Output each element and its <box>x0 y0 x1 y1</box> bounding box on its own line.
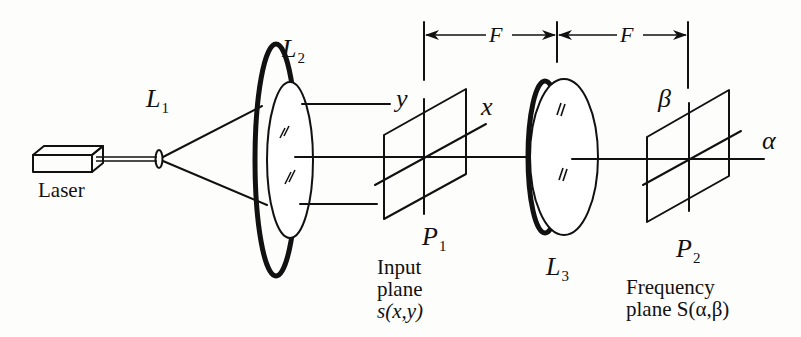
axis-alpha-label: α <box>762 128 776 154</box>
plane-p1-label-main: P <box>422 222 438 251</box>
laser-icon <box>33 146 103 172</box>
lens-l2-label: L2 <box>282 36 305 62</box>
dimension-markers <box>424 22 688 88</box>
lens-l1-label: L1 <box>146 86 169 112</box>
lens-l2-icon <box>255 44 313 276</box>
laser-beam <box>96 157 157 161</box>
lens-l1-label-sub: 1 <box>161 100 169 116</box>
lens-l3-label-main: L <box>546 252 560 281</box>
lens-l2-label-main: L <box>282 34 296 63</box>
lens-l3-icon <box>528 79 600 235</box>
lens-l1-label-main: L <box>146 84 160 113</box>
input-plane-caption-line3: s(x,y) <box>377 300 423 322</box>
axis-beta-label: β <box>658 86 671 112</box>
lens-l1-icon <box>156 150 163 168</box>
laser-label: Laser <box>38 180 85 201</box>
frequency-plane-caption-line2: plane S(α,β) <box>626 298 729 320</box>
input-plane-caption-line2: plane <box>377 278 423 300</box>
plane-p1-label: P1 <box>422 224 446 250</box>
plane-p2-label: P2 <box>676 236 700 262</box>
plane-p2-label-main: P <box>676 234 692 263</box>
input-plane-caption: Input plane s(x,y) <box>377 256 423 322</box>
plane-p1-label-sub: 1 <box>439 238 447 254</box>
dimension-f-label-2: F <box>618 24 635 46</box>
frequency-plane-caption-line1: Frequency <box>626 276 729 298</box>
input-plane-caption-line1: Input <box>377 256 423 278</box>
lens-l3-label-sub: 3 <box>561 268 569 284</box>
frequency-plane-caption: Frequency plane S(α,β) <box>626 276 729 320</box>
dimension-f-label-1: F <box>487 24 504 46</box>
plane-p2-label-sub: 2 <box>693 250 701 266</box>
axis-x-label: x <box>481 94 493 120</box>
optical-diagram: Laser L1 L2 y x F F β α P1 Input plane s… <box>0 0 801 337</box>
lens-l2-label-sub: 2 <box>297 50 305 66</box>
cone-upper-ray <box>163 106 262 157</box>
lens-l3-label: L3 <box>546 254 569 280</box>
axis-y-label: y <box>396 86 408 112</box>
cone-lower-ray <box>163 161 267 205</box>
input-plane-p1 <box>375 89 486 219</box>
